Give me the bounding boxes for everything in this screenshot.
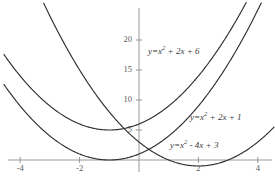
equation-base: y=x	[148, 46, 162, 56]
equation-label-2: y=x2 + 2x + 1	[190, 110, 241, 122]
equation-base: y=x	[170, 140, 184, 150]
axes-group	[8, 8, 272, 172]
equation-label-1: y=x2 + 2x + 6	[148, 44, 199, 56]
y-tick-label: 10	[114, 94, 132, 104]
parabola-curve-3	[44, 3, 274, 166]
graph-canvas: -4-2245101520 y=x2 + 2x + 6y=x2 + 2x + 1…	[0, 0, 275, 176]
x-tick-label: -4	[14, 163, 26, 173]
equation-base: y=x	[190, 112, 204, 122]
y-tick-label: 20	[114, 34, 132, 44]
x-tick-label: -2	[74, 163, 86, 173]
equation-tail: - 4x + 3	[187, 140, 218, 150]
equation-tail: + 2x + 6	[165, 46, 199, 56]
equation-label-3: y=x2 - 4x + 3	[170, 138, 218, 150]
x-tick-label: 2	[192, 163, 204, 173]
x-tick-label: 4	[252, 163, 264, 173]
equation-tail: + 2x + 1	[207, 112, 241, 122]
y-tick-label: 15	[114, 64, 132, 74]
parabola-plot-svg	[0, 0, 275, 176]
y-tick-label: 5	[114, 124, 132, 134]
